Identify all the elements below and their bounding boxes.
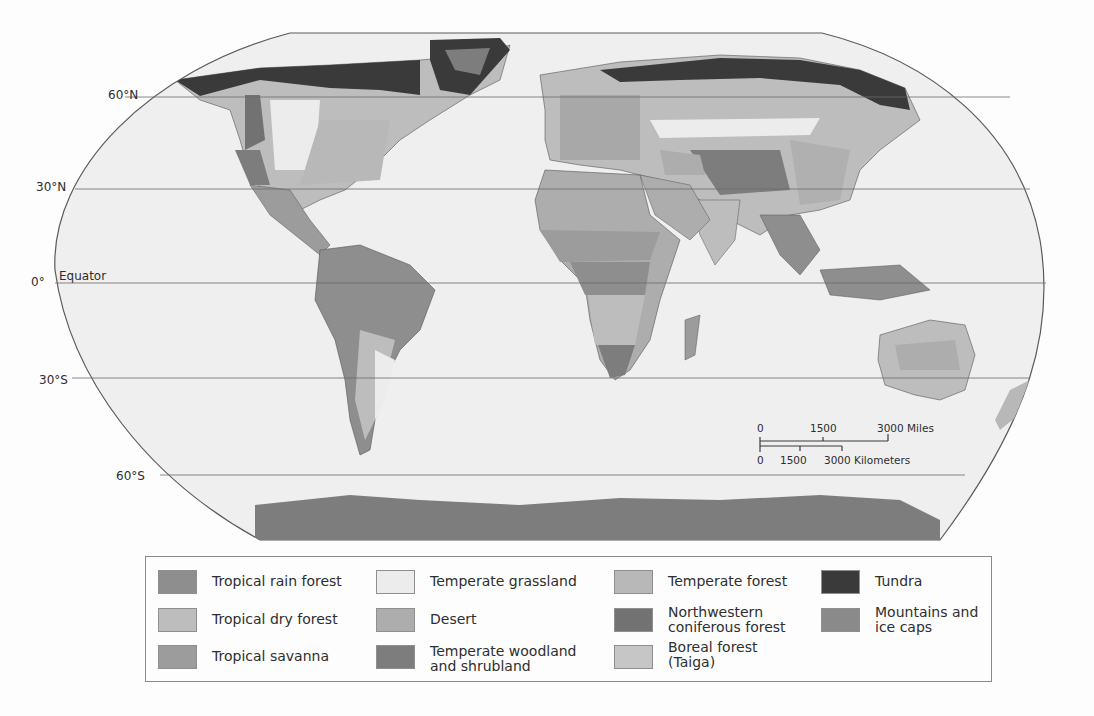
scale-miles-0: 0 [757, 422, 764, 434]
legend-swatch [158, 570, 197, 594]
latitude-label-30n: 30°N [36, 180, 66, 194]
legend-item-temperate-woodland: Temperate woodland and shrubland [376, 645, 577, 674]
legend-swatch [376, 570, 415, 594]
legend-label: Tropical dry forest [212, 612, 338, 627]
scale-bar: 0 1500 3000 Miles 0 1500 3000 Kilometers [752, 420, 982, 470]
legend-label: Northwestern coniferous forest [668, 605, 786, 635]
legend-item-tropical-dry-forest: Tropical dry forest [158, 608, 338, 632]
legend-swatch [821, 608, 860, 632]
legend-swatch [158, 608, 197, 632]
legend-item-temperate-grassland: Temperate grassland [376, 570, 577, 594]
scale-km-3000: 3000 Kilometers [824, 454, 910, 466]
legend-item-northwestern-coniferous-forest: Northwestern coniferous forest [614, 608, 786, 635]
legend-swatch [614, 645, 653, 669]
world-biome-map: 60°N 30°N 0° Equator 30°S 60°S 0 1500 30… [0, 0, 1094, 545]
scale-km-0: 0 [757, 454, 764, 466]
legend-item-temperate-forest: Temperate forest [614, 570, 787, 594]
latitude-label-60n: 60°N [108, 88, 138, 102]
legend-item-tropical-rain-forest: Tropical rain forest [158, 570, 342, 594]
scale-km-1500: 1500 [780, 454, 807, 466]
legend-swatch [158, 645, 197, 669]
biome-legend: Tropical rain forest Tropical dry forest… [145, 556, 992, 682]
scale-miles-1500: 1500 [810, 422, 837, 434]
legend-swatch [376, 645, 415, 669]
legend-label: Temperate woodland and shrubland [430, 644, 577, 674]
latitude-label-60s: 60°S [116, 469, 145, 483]
legend-swatch [821, 570, 860, 594]
scale-miles-3000: 3000 Miles [877, 422, 934, 434]
legend-label: Temperate forest [668, 574, 787, 589]
legend-label: Mountains and ice caps [875, 605, 978, 635]
legend-swatch [376, 608, 415, 632]
legend-label: Desert [430, 612, 477, 627]
legend-label: Tropical savanna [212, 649, 329, 664]
latitude-label-0: 0° [31, 275, 45, 289]
latitude-label-30s: 30°S [39, 373, 68, 387]
legend-swatch [614, 570, 653, 594]
legend-item-tropical-savanna: Tropical savanna [158, 645, 329, 669]
legend-item-boreal-forest: Boreal forest (Taiga) [614, 645, 758, 670]
legend-label: Boreal forest (Taiga) [668, 640, 758, 670]
legend-item-mountains-and-ice-caps: Mountains and ice caps [821, 608, 978, 635]
legend-item-tundra: Tundra [821, 570, 922, 594]
legend-item-desert: Desert [376, 608, 477, 632]
equator-label: Equator [59, 269, 106, 283]
legend-swatch [614, 608, 653, 632]
legend-label: Temperate grassland [430, 574, 577, 589]
legend-label: Tropical rain forest [212, 574, 342, 589]
legend-label: Tundra [875, 574, 922, 589]
